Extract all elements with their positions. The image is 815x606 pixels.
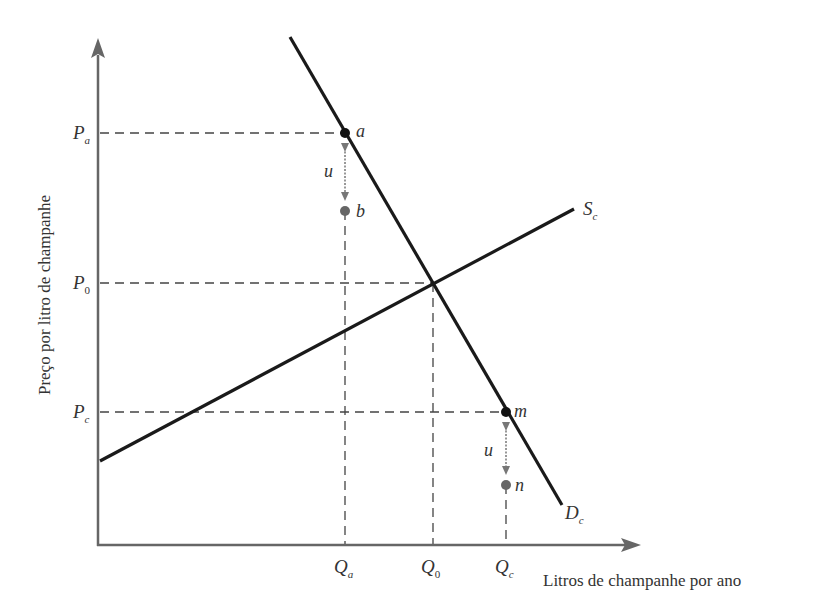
guide-lines [100,133,506,545]
label-u-top: u [324,161,333,181]
tick-q0: Q0 [421,556,441,580]
point-a [340,128,350,138]
label-demand: Dc [564,502,584,526]
point-b [340,206,350,216]
chart-canvas: a b m n u u Sc Dc Pa P0 Pc Qa Q0 Qc Preç… [0,0,815,606]
demand-curve [290,37,562,505]
label-n: n [515,475,524,495]
label-m: m [514,401,527,421]
tick-qc: Qc [495,556,514,580]
x-axis-title: Litros de champanhe por ano [543,571,741,590]
y-axis-title: Preço por litro de champanhe [35,195,54,395]
axes [91,38,641,552]
tick-pc: Pc [72,401,90,425]
u-arrows [345,148,506,471]
label-a: a [356,121,365,141]
point-n [501,480,511,490]
label-supply: Sc [583,198,598,222]
tick-p0: P0 [72,272,91,296]
label-u-bottom: u [484,440,493,460]
tick-qa: Qa [334,556,354,580]
tick-pa: Pa [72,122,91,146]
point-m [501,407,511,417]
supply-curve [100,209,574,461]
label-b: b [356,201,365,221]
